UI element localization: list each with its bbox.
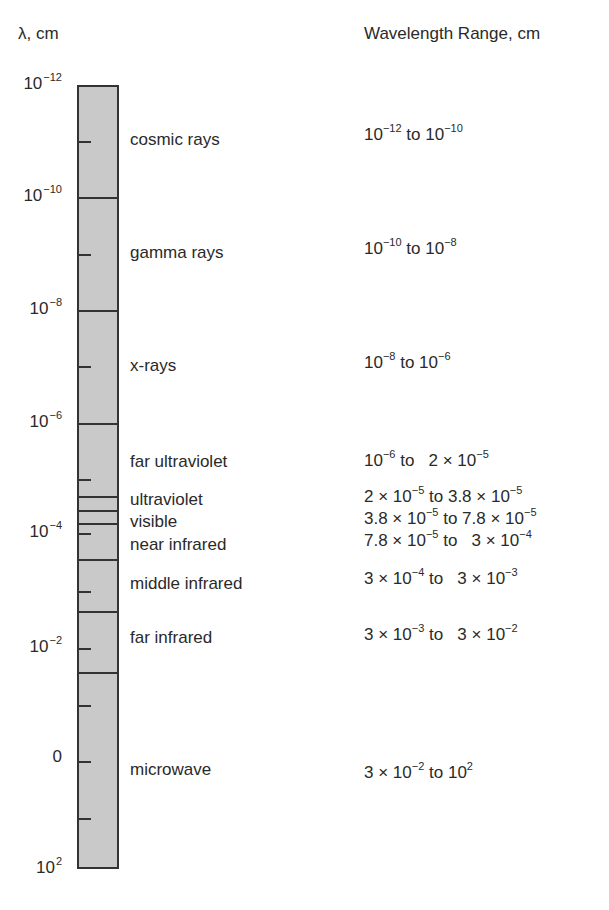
axis-label-exponent: −2 [49,634,62,646]
range-start-exponent: −4 [412,566,425,578]
axis-label-exponent: −10 [43,183,62,195]
range-end-base: to 7.8 × 10 [438,509,524,528]
axis-label-base: 10 [30,637,49,656]
range-start-base: 10 [364,239,383,258]
range-end-base: to 10 [402,239,445,258]
band-divider [79,672,117,674]
band-label-far-ultraviolet: far ultraviolet [130,452,227,472]
range-end-exponent: 2 [467,760,473,772]
band-label-x-rays: x-rays [130,356,176,376]
range-start-base: 3.8 × 10 [364,509,426,528]
spectrum-bar [77,85,119,869]
range-start-base: 7.8 × 10 [364,531,426,550]
axis-label-base: 0 [53,747,62,766]
range-end-exponent: −3 [505,566,518,578]
band-divider [79,197,117,199]
axis-tick-label: 10−2 [0,634,62,657]
range-start-exponent: −3 [412,622,425,634]
scale-tick [79,533,91,535]
range-x-rays: 10−8 to 10−6 [364,350,451,373]
range-start-base: 10 [364,125,383,144]
range-start-base: 10 [364,353,383,372]
range-column-title: Wavelength Range, cm [364,24,540,44]
axis-tick-label: 10−10 [0,183,62,206]
range-start-base: 3 × 10 [364,569,412,588]
range-end-base: to 3 × 10 [424,569,505,588]
band-label-visible: visible [130,512,177,532]
range-microwave: 3 × 10−2 to 102 [364,760,473,783]
range-end-base: to 3.8 × 10 [424,487,510,506]
range-start-exponent: −5 [426,528,439,540]
range-start-base: 3 × 10 [364,763,412,782]
band-divider [79,523,117,525]
axis-label-exponent: −8 [49,296,62,308]
range-near-infrared: 7.8 × 10−5 to 3 × 10−4 [364,528,532,551]
range-end-base: to 3 × 10 [438,531,519,550]
range-gamma-rays: 10−10 to 10−8 [364,236,457,259]
range-ultraviolet: 2 × 10−5 to 3.8 × 10−5 [364,484,522,507]
range-far-infrared: 3 × 10−3 to 3 × 10−2 [364,622,518,645]
axis-label-exponent: 2 [56,855,62,867]
range-end-base: to 10 [424,763,467,782]
range-far-ultraviolet: 10−6 to 2 × 10−5 [364,448,489,471]
band-divider [79,559,117,561]
range-start-exponent: −6 [383,448,396,460]
range-end-exponent: −2 [505,622,518,634]
range-start-exponent: −8 [383,350,396,362]
range-cosmic-rays: 10−12 to 10−10 [364,122,463,145]
scale-tick [79,479,91,481]
scale-tick [79,366,91,368]
range-start-exponent: −5 [426,506,439,518]
band-label-ultraviolet: ultraviolet [130,490,203,510]
range-end-base: to 10 [402,125,445,144]
axis-tick-label: 10−8 [0,296,62,319]
band-label-near-infrared: near infrared [130,535,226,555]
band-divider [79,310,117,312]
axis-label-base: 10 [30,299,49,318]
band-label-middle-infrared: middle infrared [130,574,242,594]
range-end-base: to 3 × 10 [424,625,505,644]
range-middle-infrared: 3 × 10−4 to 3 × 10−3 [364,566,518,589]
range-start-exponent: −2 [412,760,425,772]
range-end-exponent: −5 [476,448,489,460]
axis-tick-label: 102 [0,855,62,878]
axis-label-base: 10 [23,186,42,205]
range-end-exponent: −5 [524,506,537,518]
band-divider [79,423,117,425]
axis-tick-label: 0 [0,747,62,767]
axis-label-base: 10 [30,412,49,431]
range-end-exponent: −4 [519,528,532,540]
band-label-gamma-rays: gamma rays [130,243,224,263]
range-end-base: to 2 × 10 [395,451,476,470]
axis-label-base: 10 [30,522,49,541]
range-start-base: 10 [364,451,383,470]
band-divider [79,611,117,613]
scale-tick [79,591,91,593]
scale-tick [79,761,91,763]
range-start-exponent: −5 [412,484,425,496]
band-divider [79,510,117,512]
range-end-exponent: −5 [510,484,523,496]
axis-tick-label: 10−12 [0,71,62,94]
band-label-microwave: microwave [130,760,211,780]
band-label-far-infrared: far infrared [130,628,212,648]
scale-tick [79,254,91,256]
range-start-exponent: −10 [383,236,402,248]
band-divider [79,496,117,498]
scale-tick [79,648,91,650]
axis-tick-label: 10−6 [0,409,62,432]
range-end-exponent: −6 [438,350,451,362]
axis-label-exponent: −6 [49,409,62,421]
range-end-exponent: −10 [444,122,463,134]
axis-tick-label: 10−4 [0,519,62,542]
scale-tick [79,818,91,820]
scale-tick [79,705,91,707]
range-start-base: 2 × 10 [364,487,412,506]
axis-title: λ, cm [18,24,59,44]
scale-tick [79,141,91,143]
range-start-exponent: −12 [383,122,402,134]
axis-label-exponent: −12 [43,71,62,83]
band-label-cosmic-rays: cosmic rays [130,130,220,150]
range-start-base: 3 × 10 [364,625,412,644]
axis-label-exponent: −4 [49,519,62,531]
